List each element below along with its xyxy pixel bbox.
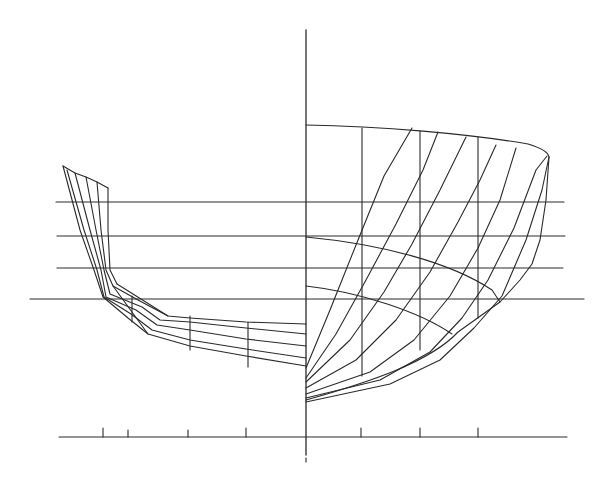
aft-sections — [63, 166, 306, 367]
forward-sections — [306, 125, 549, 402]
fore-diagonal-arc — [306, 237, 500, 302]
aft-section-curve — [97, 182, 306, 324]
fore-diagonal-arc — [306, 286, 452, 334]
hull-body-plan-drawing — [0, 0, 612, 482]
fore-section-curve — [306, 128, 412, 368]
fore-sheer-line — [306, 125, 549, 157]
fore-section-curve — [306, 132, 438, 378]
fore-section-curve — [306, 148, 516, 394]
